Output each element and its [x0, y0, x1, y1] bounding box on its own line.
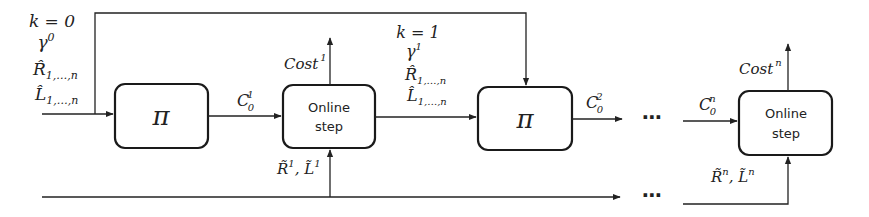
r-hat-label: R̂1,…,n: [32, 59, 78, 82]
ellipsis-bottom: ⋯: [642, 183, 662, 207]
online-step-box-1: Online step: [283, 85, 375, 148]
k0-label: k = 0: [29, 11, 75, 31]
cost1-label: Cost1: [284, 52, 327, 73]
svg-text:step: step: [315, 119, 343, 134]
r-hat-1-label: R̂1,…,n: [404, 65, 446, 86]
l-hat-1-label: L̂1,…,n: [406, 86, 447, 107]
initial-parameters: k = 0 γ0 R̂1,…,n L̂1,…,n: [29, 11, 78, 107]
k1-label: k = 1: [396, 23, 439, 42]
rl1-label: R̃1, L̃1: [276, 158, 321, 178]
gamma1-label: γ1: [406, 41, 422, 61]
rln-label: R̃n, L̃n: [710, 166, 755, 186]
iteration-1-parameters: k = 1 γ1 R̂1,…,n L̂1,…,n: [396, 23, 447, 107]
pi-box-1: π: [115, 84, 208, 148]
c0n-label: Cn0: [699, 93, 717, 117]
c01-label: C10: [237, 89, 255, 113]
pi-box-2: π: [478, 87, 572, 150]
svg-text:step: step: [772, 126, 800, 141]
online-step-box-n: Online step: [739, 91, 832, 155]
svg-text:π: π: [151, 101, 170, 131]
gamma0-label: γ0: [37, 31, 54, 52]
svg-text:Online: Online: [308, 100, 350, 115]
svg-text:Online: Online: [765, 106, 807, 121]
svg-text:π: π: [515, 104, 534, 134]
ellipsis-top: ⋯: [642, 105, 662, 129]
flow-diagram: k = 0 γ0 R̂1,…,n L̂1,…,n π C10 Online st…: [0, 0, 869, 217]
l-hat-label: L̂1,…,n: [34, 84, 78, 107]
c02-label: C20: [586, 91, 604, 115]
costn-label: Costn: [739, 57, 782, 78]
